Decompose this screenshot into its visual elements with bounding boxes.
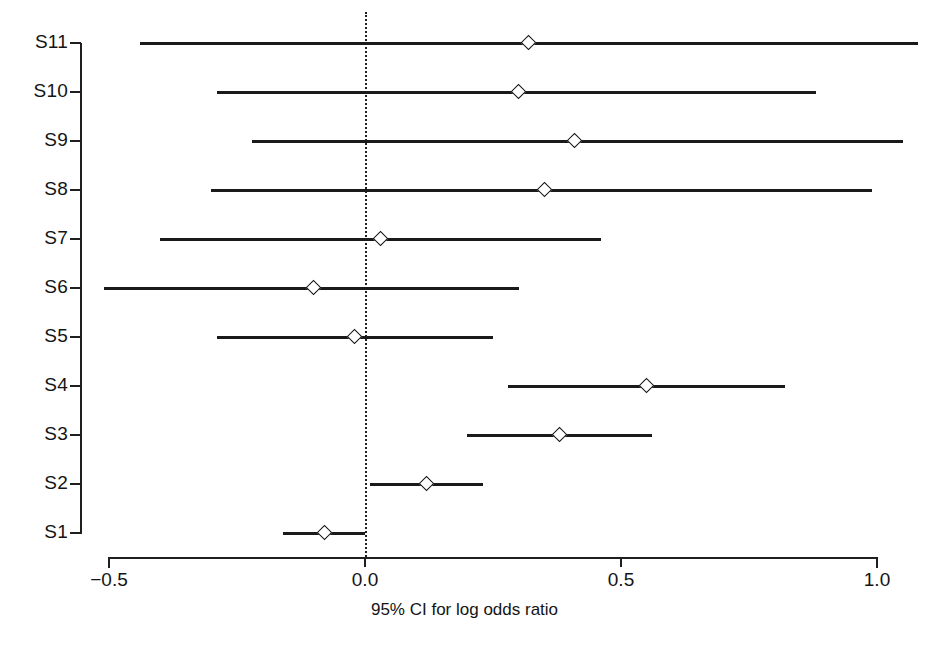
point-estimate-marker xyxy=(567,133,583,149)
ci-row xyxy=(0,330,929,344)
x-axis-tick xyxy=(620,557,622,567)
ci-row xyxy=(0,232,929,246)
point-estimate-marker xyxy=(521,35,537,51)
ci-row xyxy=(0,477,929,491)
x-axis-tick-label: 0.0 xyxy=(330,570,400,590)
x-axis-tick xyxy=(876,557,878,568)
point-estimate-marker xyxy=(639,378,655,394)
ci-row xyxy=(0,526,929,540)
x-axis-tick-label: 1.0 xyxy=(842,570,912,590)
ci-row xyxy=(0,183,929,197)
point-estimate-marker xyxy=(373,231,389,247)
ci-row xyxy=(0,85,929,99)
ci-row xyxy=(0,428,929,442)
point-estimate-marker xyxy=(552,427,568,443)
ci-row xyxy=(0,134,929,148)
x-axis-tick xyxy=(364,557,366,567)
point-estimate-marker xyxy=(536,182,552,198)
x-axis-line xyxy=(109,557,877,559)
point-estimate-marker xyxy=(306,280,322,296)
x-axis-tick-label: −0.5 xyxy=(74,570,144,590)
ci-row xyxy=(0,281,929,295)
point-estimate-marker xyxy=(511,84,527,100)
point-estimate-marker xyxy=(347,329,363,345)
forest-plot: S11S10S9S8S7S6S5S4S3S2S1 −0.50.00.51.0 9… xyxy=(0,0,929,647)
x-axis-title: 95% CI for log odds ratio xyxy=(0,600,929,620)
point-estimate-marker xyxy=(419,476,435,492)
x-axis-tick-label: 0.5 xyxy=(586,570,656,590)
plot-area: S11S10S9S8S7S6S5S4S3S2S1 −0.50.00.51.0 9… xyxy=(0,0,929,647)
ci-row xyxy=(0,379,929,393)
ci-row xyxy=(0,36,929,50)
x-axis-tick xyxy=(108,557,110,568)
point-estimate-marker xyxy=(316,525,332,541)
